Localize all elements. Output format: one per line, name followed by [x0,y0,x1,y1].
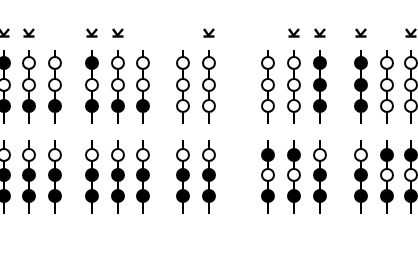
filled-bead-icon [354,168,368,182]
open-bead-icon [380,56,394,70]
open-bead-icon [313,148,327,162]
filled-bead-icon [313,189,327,203]
filled-bead-icon [136,189,150,203]
filled-bead-icon [85,168,99,182]
open-bead-icon [380,78,394,92]
filled-bead-icon [85,56,99,70]
open-bead-icon [111,148,125,162]
filled-bead-icon [136,99,150,113]
filled-bead-icon [380,148,394,162]
k-mark-icon [405,28,417,38]
filled-bead-icon [261,189,275,203]
filled-bead-icon [313,99,327,113]
open-bead-icon [22,56,36,70]
open-bead-icon [202,148,216,162]
filled-bead-icon [313,168,327,182]
open-bead-icon [261,99,275,113]
filled-bead-icon [136,168,150,182]
open-bead-icon [136,148,150,162]
open-bead-icon [176,56,190,70]
open-bead-icon [22,148,36,162]
filled-bead-icon [48,99,62,113]
k-mark-icon [203,28,215,38]
k-mark-icon [288,28,300,38]
open-bead-icon [404,168,418,182]
filled-bead-icon [354,56,368,70]
open-bead-icon [261,78,275,92]
open-bead-icon [136,78,150,92]
filled-bead-icon [111,189,125,203]
filled-bead-icon [261,148,275,162]
filled-bead-icon [0,168,11,182]
open-bead-icon [380,168,394,182]
open-bead-icon [48,78,62,92]
open-bead-icon [354,148,368,162]
open-bead-icon [404,56,418,70]
k-mark-icon [23,28,35,38]
filled-bead-icon [404,189,418,203]
filled-bead-icon [22,189,36,203]
filled-bead-icon [354,99,368,113]
open-bead-icon [287,78,301,92]
filled-bead-icon [176,189,190,203]
open-bead-icon [22,78,36,92]
filled-bead-icon [202,189,216,203]
filled-bead-icon [202,168,216,182]
filled-bead-icon [22,99,36,113]
open-bead-icon [85,148,99,162]
filled-bead-icon [111,99,125,113]
filled-bead-icon [85,99,99,113]
k-mark-icon [112,28,124,38]
filled-bead-icon [354,189,368,203]
open-bead-icon [287,99,301,113]
filled-bead-icon [313,78,327,92]
open-bead-icon [404,78,418,92]
open-bead-icon [85,78,99,92]
filled-bead-icon [48,168,62,182]
filled-bead-icon [380,189,394,203]
filled-bead-icon [0,56,11,70]
open-bead-icon [48,56,62,70]
filled-bead-icon [48,189,62,203]
k-mark-icon [314,28,326,38]
open-bead-icon [202,99,216,113]
open-bead-icon [0,148,11,162]
k-mark-icon [355,28,367,38]
filled-bead-icon [287,189,301,203]
filled-bead-icon [111,168,125,182]
filled-bead-icon [85,189,99,203]
open-bead-icon [202,56,216,70]
filled-bead-icon [0,189,11,203]
filled-bead-icon [22,168,36,182]
filled-bead-icon [0,99,11,113]
open-bead-icon [261,168,275,182]
k-mark-icon [0,28,10,38]
open-bead-icon [136,56,150,70]
filled-bead-icon [354,78,368,92]
filled-bead-icon [313,56,327,70]
open-bead-icon [176,148,190,162]
filled-bead-icon [404,148,418,162]
filled-bead-icon [176,168,190,182]
open-bead-icon [202,78,216,92]
open-bead-icon [404,99,418,113]
open-bead-icon [287,56,301,70]
open-bead-icon [261,56,275,70]
k-mark-icon [86,28,98,38]
open-bead-icon [0,78,11,92]
open-bead-icon [111,78,125,92]
open-bead-icon [111,56,125,70]
open-bead-icon [287,168,301,182]
open-bead-icon [48,148,62,162]
open-bead-icon [176,78,190,92]
open-bead-icon [176,99,190,113]
filled-bead-icon [287,148,301,162]
open-bead-icon [380,99,394,113]
